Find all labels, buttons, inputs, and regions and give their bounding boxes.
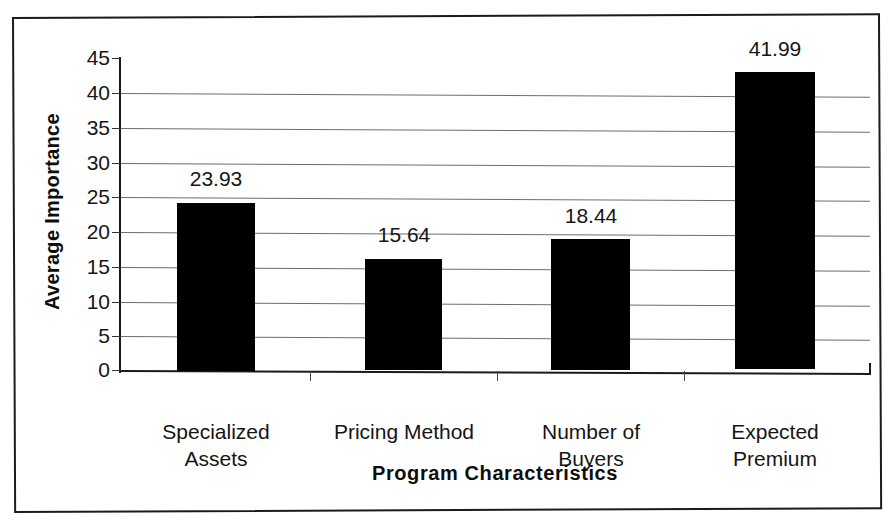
y-tick-35 [112, 128, 121, 129]
x-category-line-1: Number of [542, 420, 640, 443]
chart-page: 45 40 35 30 25 20 15 10 5 0 23.93 15.64 … [0, 0, 892, 530]
x-axis-title: Program Characteristics [120, 462, 870, 485]
bar-value-label-number-of-buyers: 18.44 [531, 205, 651, 226]
y-tick-label-15: 15 [64, 256, 110, 277]
x-category-line-1: Pricing Method [334, 420, 474, 443]
y-tick-label-25: 25 [64, 186, 110, 207]
y-tick-15 [112, 267, 121, 268]
y-tick-label-45: 45 [64, 47, 110, 68]
bar-pricing-method[interactable] [365, 259, 442, 370]
y-tick-label-35: 35 [64, 117, 110, 138]
bar-expected-premium[interactable] [735, 72, 815, 369]
y-tick-30 [112, 163, 121, 164]
x-axis-end-tick [869, 363, 871, 373]
x-category-line-1: Specialized [162, 420, 269, 443]
y-tick-40 [112, 93, 121, 94]
y-tick-20 [112, 232, 121, 233]
x-category-label-pricing-method: Pricing Method [323, 391, 485, 445]
y-tick-10 [112, 302, 121, 303]
bar-value-label-specialized-assets: 23.93 [156, 168, 276, 189]
y-tick-label-10: 10 [64, 291, 110, 312]
bar-chart: 45 40 35 30 25 20 15 10 5 0 23.93 15.64 … [0, 0, 892, 530]
x-category-line-1: Expected [731, 420, 819, 443]
bar-number-of-buyers[interactable] [551, 239, 630, 370]
y-tick-label-0: 0 [64, 359, 110, 380]
y-tick-label-30: 30 [64, 152, 110, 173]
y-axis-line [119, 57, 121, 373]
y-tick-45 [112, 58, 121, 59]
x-axis-separator-1 [310, 371, 311, 381]
x-axis-separator-2 [497, 371, 498, 381]
y-axis-title: Average Importance [41, 82, 64, 342]
y-tick-0 [112, 370, 121, 371]
bar-specialized-assets[interactable] [177, 203, 255, 371]
y-tick-5 [112, 336, 121, 337]
bar-value-label-pricing-method: 15.64 [344, 224, 464, 245]
y-tick-label-20: 20 [64, 221, 110, 242]
bar-value-label-expected-premium: 41.99 [715, 38, 835, 59]
y-tick-label-5: 5 [64, 325, 110, 346]
y-tick-label-40: 40 [64, 82, 110, 103]
x-axis-separator-3 [684, 371, 685, 381]
y-tick-25 [112, 197, 121, 198]
